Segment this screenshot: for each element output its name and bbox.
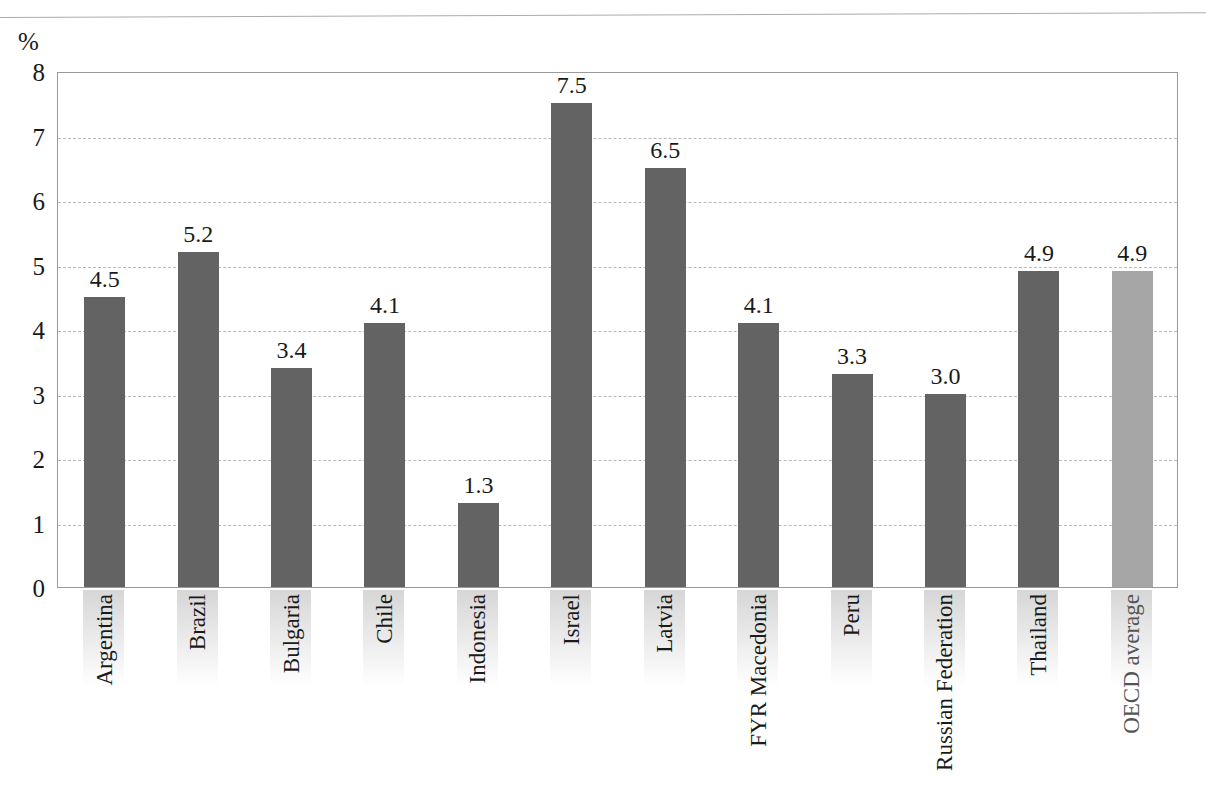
y-axis-tick-8: 8	[5, 60, 45, 85]
gridline-1	[58, 525, 1177, 526]
bar-value-label: 4.1	[710, 293, 807, 317]
bar-value-label: 4.9	[1084, 241, 1181, 265]
bar[interactable]	[1112, 271, 1153, 587]
y-axis-tick-labels: 012345678	[0, 72, 45, 588]
y-axis-tick-7: 7	[5, 124, 45, 149]
bar-group: 4.1	[364, 73, 405, 587]
bar-group: 4.5	[84, 73, 125, 587]
bar-value-label: 3.4	[243, 338, 340, 362]
bar-chart-figure: % 012345678 4.55.23.44.11.37.56.54.13.33…	[0, 0, 1206, 797]
bar-group: 4.9	[1112, 73, 1153, 587]
bar[interactable]	[832, 374, 873, 587]
category-label-argentina: Argentina	[92, 594, 115, 686]
y-axis-tick-2: 2	[5, 447, 45, 472]
category-label-slot: Indonesia	[431, 590, 524, 790]
y-axis-tick-3: 3	[5, 382, 45, 407]
gridline-6	[58, 202, 1177, 203]
gridline-3	[58, 396, 1177, 397]
bar[interactable]	[364, 323, 405, 587]
x-axis-category-labels: ArgentinaBrazilBulgariaChileIndonesiaIsr…	[57, 590, 1178, 790]
category-label-slot: Argentina	[57, 590, 150, 790]
category-label-slot: Brazil	[150, 590, 243, 790]
category-label-slot: Russian Federation	[898, 590, 991, 790]
bar-group: 5.2	[178, 73, 219, 587]
bar[interactable]	[84, 297, 125, 587]
bar-value-label: 3.3	[804, 344, 901, 368]
bar-value-label: 4.1	[336, 293, 433, 317]
bar-group: 4.1	[738, 73, 779, 587]
bar-group: 3.0	[925, 73, 966, 587]
category-label-brazil: Brazil	[186, 594, 209, 650]
bar[interactable]	[1018, 271, 1059, 587]
gridline-5	[58, 267, 1177, 268]
bar-group: 7.5	[551, 73, 592, 587]
plot-area: 4.55.23.44.11.37.56.54.13.33.04.94.9	[57, 72, 1178, 588]
bar-group: 6.5	[645, 73, 686, 587]
bar-value-label: 4.9	[990, 241, 1087, 265]
y-axis-tick-0: 0	[5, 576, 45, 601]
y-axis-tick-6: 6	[5, 189, 45, 214]
category-label-slot: Bulgaria	[244, 590, 337, 790]
bar-value-label: 7.5	[523, 73, 620, 97]
y-axis-tick-5: 5	[5, 253, 45, 278]
bar-value-label: 4.5	[56, 267, 153, 291]
category-label-slot: OECD average	[1085, 590, 1178, 790]
category-label-indonesia: Indonesia	[466, 594, 489, 683]
bar-value-label: 6.5	[617, 138, 714, 162]
bar-group: 1.3	[458, 73, 499, 587]
bar[interactable]	[645, 168, 686, 587]
bar[interactable]	[458, 503, 499, 587]
bar[interactable]	[551, 103, 592, 587]
bar[interactable]	[738, 323, 779, 587]
bar-group: 4.9	[1018, 73, 1059, 587]
category-label-israel: Israel	[559, 594, 582, 645]
y-axis-tick-4: 4	[5, 318, 45, 343]
category-label-fyr-macedonia: FYR Macedonia	[746, 594, 769, 747]
category-label-slot: FYR Macedonia	[711, 590, 804, 790]
y-axis-unit-label: %	[18, 29, 39, 54]
category-label-slot: Latvia	[618, 590, 711, 790]
category-label-bulgaria: Bulgaria	[279, 594, 302, 673]
bar-group: 3.3	[832, 73, 873, 587]
category-label-peru: Peru	[840, 594, 863, 636]
category-label-russian-federation: Russian Federation	[933, 594, 956, 771]
category-label-slot: Israel	[524, 590, 617, 790]
gridline-4	[58, 331, 1177, 332]
bar[interactable]	[271, 368, 312, 587]
category-label-chile: Chile	[372, 594, 395, 644]
y-axis-tick-1: 1	[5, 511, 45, 536]
bar[interactable]	[925, 394, 966, 588]
bar-value-label: 5.2	[150, 222, 247, 246]
category-label-slot: Thailand	[991, 590, 1084, 790]
category-label-oecd-average: OECD average	[1120, 594, 1143, 734]
bar-group: 3.4	[271, 73, 312, 587]
category-label-slot: Chile	[337, 590, 430, 790]
bar-value-label: 3.0	[897, 364, 994, 388]
gridline-2	[58, 460, 1177, 461]
category-label-latvia: Latvia	[653, 594, 676, 653]
bar[interactable]	[178, 252, 219, 587]
bar-value-label: 1.3	[430, 473, 527, 497]
category-label-thailand: Thailand	[1026, 594, 1049, 676]
category-label-slot: Peru	[804, 590, 897, 790]
